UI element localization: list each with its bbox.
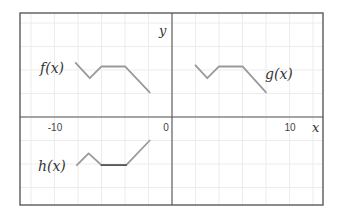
g-label: g(x) bbox=[265, 66, 293, 82]
x-tick-label-0: 0 bbox=[163, 122, 169, 133]
x-axis-label: x bbox=[312, 120, 320, 135]
f-label: f(x) bbox=[39, 60, 64, 76]
curve-fx bbox=[76, 63, 150, 92]
curve-hx bbox=[77, 141, 150, 166]
curve-gx bbox=[196, 65, 267, 92]
curves bbox=[76, 63, 266, 165]
h-label: h(x) bbox=[38, 158, 66, 174]
y-axis-label: y bbox=[158, 23, 167, 38]
function-graph: -10 0 10 x y f(x) g(x) h(x) bbox=[0, 0, 342, 215]
x-tick-label-10: 10 bbox=[284, 122, 296, 133]
x-tick-label-neg10: -10 bbox=[48, 122, 63, 133]
